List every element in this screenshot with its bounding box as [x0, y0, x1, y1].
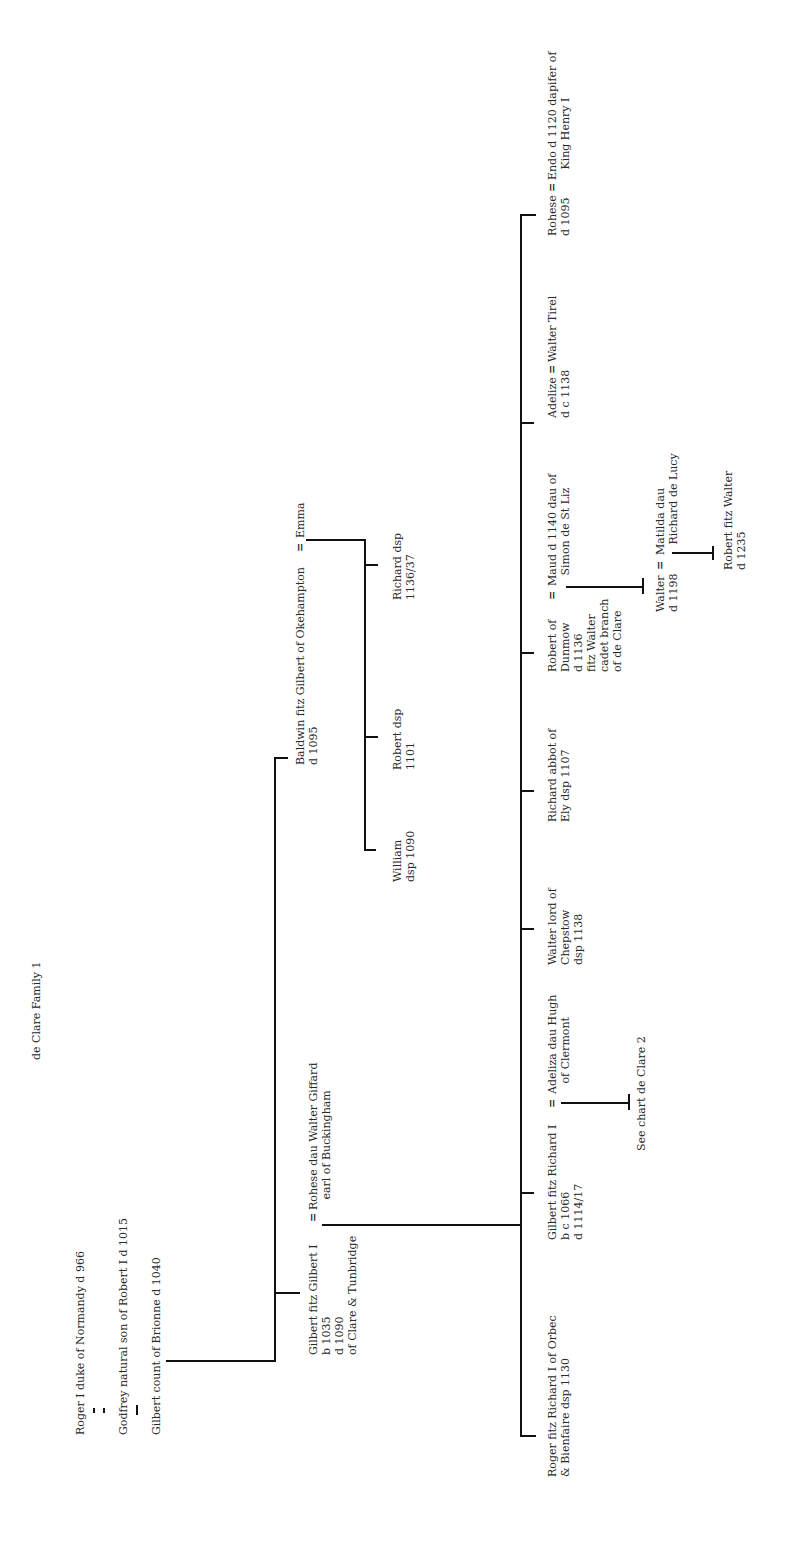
- person-adeliza-clermont: Adeliza dau Hugh of Clermont: [546, 995, 572, 1094]
- person-gilbert-fitz-richard: Gilbert fitz Richard I b c 1066 d 1114/1…: [546, 1125, 585, 1240]
- marriage-symbol: =: [654, 561, 667, 570]
- marriage-symbol: =: [546, 183, 559, 192]
- person-endo: Endo d 1120 dapifer of King Henry I: [546, 52, 572, 181]
- descent-dash-line: [93, 1408, 95, 1413]
- descent-line: [628, 1094, 630, 1110]
- child-tick-line: [274, 757, 288, 759]
- marriage-descent-line: [561, 1102, 629, 1104]
- person-godfrey: Godfrey natural son of Robert I d 1015: [117, 1218, 130, 1435]
- child-tick-line: [520, 1192, 534, 1194]
- see-chart-note: See chart de Clare 2: [635, 1036, 648, 1151]
- marriage-symbol: =: [546, 1099, 559, 1108]
- child-tick-line: [520, 928, 534, 930]
- marriage-descent-line: [322, 1224, 522, 1226]
- sibling-bracket-line: [520, 214, 522, 1437]
- person-walter-tirel: Walter Tirel: [546, 296, 559, 362]
- marriage-symbol: =: [307, 1213, 320, 1222]
- person-william: William dsp 1090: [391, 831, 417, 882]
- descent-line: [136, 1405, 138, 1415]
- person-rohese-giffard: Rohese dau Walter Giffard earl of Buckin…: [307, 1063, 333, 1210]
- person-richard-dsp: Richard dsp 1136/37: [391, 533, 417, 600]
- person-robert-dsp: Robert dsp 1101: [391, 709, 417, 770]
- child-tick-line: [274, 1292, 300, 1294]
- person-richard-abbot: Richard abbot of Ely dsp 1107: [546, 729, 572, 822]
- child-tick-line: [520, 1435, 536, 1437]
- descent-line: [712, 546, 714, 560]
- marriage-descent-line: [672, 552, 714, 554]
- child-tick-line: [520, 652, 534, 654]
- person-walter-chepstow: Walter lord of Chepstow dsp 1138: [546, 888, 585, 965]
- marriage-symbol: =: [294, 543, 307, 552]
- child-tick-line: [364, 736, 378, 738]
- child-tick-line: [520, 422, 534, 424]
- person-robert-dunmow: Robert of Dunmow d 1136 fitz Walter cade…: [546, 599, 624, 672]
- child-tick-line: [364, 564, 378, 566]
- child-tick-line: [520, 214, 536, 216]
- person-rohese-1095: Rohese d 1095: [546, 195, 572, 236]
- person-maud: Maud d 1140 dau of Simon de St Liz: [546, 474, 572, 586]
- person-robert-fitz-walter: Robert fitz Walter d 1235: [722, 471, 748, 570]
- child-tick-line: [520, 790, 534, 792]
- marriage-symbol: =: [546, 591, 559, 600]
- sibling-bracket-line: [364, 539, 366, 851]
- person-baldwin: Baldwin fitz Gilbert of Okehampton d 109…: [294, 567, 320, 765]
- person-matilda: Matilda dau Richard de Lucy: [654, 453, 680, 555]
- person-roger-fitz-richard: Roger fitz Richard I of Orbec & Bienfair…: [546, 1315, 572, 1477]
- person-gilbert-count-of-brionne: Gilbert count of Brionne d 1040: [150, 1257, 163, 1435]
- person-roger-duke-of-normandy: Roger I duke of Normandy d 966: [74, 1251, 87, 1435]
- person-adelize: Adelize d c 1138: [546, 370, 572, 418]
- marriage-symbol: =: [546, 365, 559, 374]
- chart-title: de Clare Family 1: [30, 962, 43, 1060]
- person-walter-1198: Walter d 1198: [654, 573, 680, 612]
- marriage-descent-line: [566, 586, 644, 588]
- marriage-descent-line: [306, 539, 366, 541]
- descent-dash-line: [103, 1408, 105, 1413]
- child-tick-line: [364, 849, 376, 851]
- sibling-bracket-line: [274, 757, 276, 1362]
- descent-line: [166, 1360, 276, 1362]
- descent-line: [642, 578, 644, 594]
- person-emma: Emma: [294, 503, 307, 538]
- person-gilbert-fitz-gilbert: Gilbert fitz Gilbert I b 1035 d 1090 of …: [307, 1236, 359, 1355]
